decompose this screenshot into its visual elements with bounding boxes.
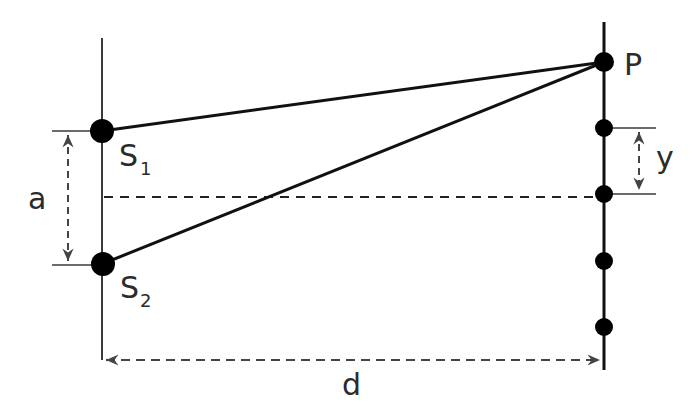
point-p-dot bbox=[594, 52, 614, 72]
ray-s1-to-p bbox=[102, 62, 604, 131]
label-s1-subscript: 1 bbox=[140, 158, 151, 179]
label-s1: S bbox=[119, 138, 138, 173]
fringe-dot-2 bbox=[595, 185, 613, 203]
source-s1-dot bbox=[90, 119, 114, 143]
fringe-dot-4 bbox=[595, 318, 613, 336]
fringe-dot-1 bbox=[595, 119, 613, 137]
label-s2-subscript: 2 bbox=[140, 290, 151, 311]
label-s2: S bbox=[120, 270, 139, 305]
label-y: y bbox=[656, 140, 674, 175]
label-d: d bbox=[342, 367, 361, 402]
source-s2-dot bbox=[91, 252, 115, 276]
double-slit-diagram: S 1 S 2 P a y d bbox=[0, 0, 697, 415]
ray-s2-to-p bbox=[102, 62, 604, 264]
label-p: P bbox=[624, 47, 642, 82]
label-a: a bbox=[28, 181, 46, 216]
fringe-dot-3 bbox=[595, 252, 613, 270]
